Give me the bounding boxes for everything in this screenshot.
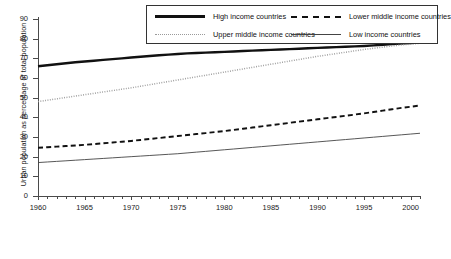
x-tick-major xyxy=(411,196,412,200)
x-tick-minor xyxy=(113,196,114,199)
x-tick-minor xyxy=(308,196,309,199)
y-tick-label: 60 xyxy=(2,73,28,82)
x-tick-label: 1980 xyxy=(206,203,242,212)
x-tick-label: 1970 xyxy=(113,203,149,212)
legend-item[interactable]: High income countries xyxy=(151,7,286,26)
y-tick-label: 40 xyxy=(2,112,28,121)
x-tick-label: 1985 xyxy=(253,203,289,212)
y-tick xyxy=(33,19,38,20)
legend-item[interactable]: Lower middle income countries xyxy=(287,7,451,26)
series-line-3 xyxy=(38,133,420,162)
x-tick-minor xyxy=(327,196,328,199)
x-tick-minor xyxy=(215,196,216,199)
x-tick-minor xyxy=(66,196,67,199)
x-tick-minor xyxy=(47,196,48,199)
x-tick-minor xyxy=(150,196,151,199)
x-tick-label: 1960 xyxy=(20,203,56,212)
x-tick-minor xyxy=(355,196,356,199)
x-tick-minor xyxy=(187,196,188,199)
legend-item[interactable]: Low income countries xyxy=(287,25,420,44)
legend-line-swatch-icon xyxy=(287,29,345,41)
x-tick-minor xyxy=(280,196,281,199)
x-tick-minor xyxy=(206,196,207,199)
x-tick-minor xyxy=(392,196,393,199)
y-tick xyxy=(33,117,38,118)
x-tick-major xyxy=(131,196,132,200)
x-tick-minor xyxy=(401,196,402,199)
x-tick-major xyxy=(271,196,272,200)
x-tick-label: 1975 xyxy=(160,203,196,212)
x-tick-minor xyxy=(290,196,291,199)
x-tick-minor xyxy=(103,196,104,199)
x-tick-minor xyxy=(420,196,421,199)
series-line-1 xyxy=(38,43,420,101)
x-tick-minor xyxy=(75,196,76,199)
y-axis-line xyxy=(38,17,39,198)
x-tick-label: 1990 xyxy=(300,203,336,212)
x-tick-minor xyxy=(373,196,374,199)
y-tick-label: 10 xyxy=(2,171,28,180)
x-tick-minor xyxy=(122,196,123,199)
x-tick-minor xyxy=(57,196,58,199)
legend-item-label: High income countries xyxy=(209,12,286,21)
y-tick-label: 50 xyxy=(2,93,28,102)
y-tick-label: 80 xyxy=(2,34,28,43)
y-tick xyxy=(33,58,38,59)
y-tick-label: 90 xyxy=(2,14,28,23)
x-tick-minor xyxy=(243,196,244,199)
x-tick-minor xyxy=(299,196,300,199)
x-tick-label: 1965 xyxy=(67,203,103,212)
legend-line-swatch-icon xyxy=(287,11,345,23)
x-tick-minor xyxy=(159,196,160,199)
y-tick xyxy=(33,157,38,158)
y-tick-label: 30 xyxy=(2,132,28,141)
legend-item-label: Lower middle income countries xyxy=(345,12,451,21)
chart-legend: High income countriesLower middle income… xyxy=(146,5,438,44)
x-tick-major xyxy=(224,196,225,200)
y-tick-label: 70 xyxy=(2,53,28,62)
x-tick-minor xyxy=(262,196,263,199)
x-tick-minor xyxy=(346,196,347,199)
x-tick-major xyxy=(178,196,179,200)
y-tick xyxy=(33,39,38,40)
x-tick-label: 2000 xyxy=(393,203,429,212)
x-tick-major xyxy=(318,196,319,200)
y-tick xyxy=(33,78,38,79)
x-tick-minor xyxy=(168,196,169,199)
x-tick-major xyxy=(364,196,365,200)
y-tick xyxy=(33,98,38,99)
x-tick-minor xyxy=(383,196,384,199)
x-tick-minor xyxy=(252,196,253,199)
y-tick-label: 20 xyxy=(2,152,28,161)
y-tick xyxy=(33,137,38,138)
legend-line-swatch-icon xyxy=(151,29,209,41)
y-tick xyxy=(33,176,38,177)
x-tick-major xyxy=(85,196,86,200)
x-tick-minor xyxy=(141,196,142,199)
x-tick-label: 1995 xyxy=(346,203,382,212)
x-tick-minor xyxy=(234,196,235,199)
x-tick-minor xyxy=(196,196,197,199)
x-tick-minor xyxy=(94,196,95,199)
legend-line-swatch-icon xyxy=(151,11,209,23)
series-line-2 xyxy=(38,106,420,148)
legend-item-label: Low income countries xyxy=(345,30,420,39)
y-tick-label: 0 xyxy=(2,191,28,200)
x-tick-major xyxy=(38,196,39,200)
series-line-0 xyxy=(38,42,420,66)
x-tick-minor xyxy=(336,196,337,199)
